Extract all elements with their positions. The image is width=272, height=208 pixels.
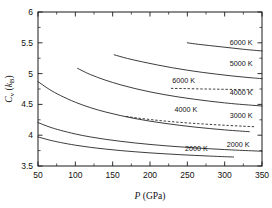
curve-label-3: 4000 K	[230, 88, 253, 97]
y-axis-title: Cv (kB)	[4, 75, 16, 102]
curve-label-4: 3000 K	[230, 111, 253, 120]
curve-label-5: 4000 K	[174, 105, 197, 114]
x-axis-title: P (GPa)	[134, 191, 166, 202]
curve-label-0: 6000 K	[230, 38, 253, 47]
x-tick-label: 350	[255, 170, 269, 180]
chart-figure: 501001502002503003503.544.555.566000 K50…	[0, 0, 272, 208]
curve-label-7: 2000 K	[185, 144, 208, 153]
y-tick-label: 4.5	[21, 99, 33, 109]
y-tick-label: 6	[28, 7, 33, 17]
cv-vs-pressure-chart: 501001502002503003503.544.555.566000 K50…	[0, 0, 272, 208]
y-tick-label: 5	[28, 69, 33, 79]
x-tick-label: 200	[143, 170, 157, 180]
x-tick-label: 50	[33, 170, 43, 180]
x-tick-label: 300	[218, 170, 232, 180]
curve-label-2: 6000 K	[172, 76, 195, 85]
curve-label-1: 5000 K	[230, 59, 253, 68]
x-tick-label: 100	[68, 170, 82, 180]
curve-label-6: 2000 K	[227, 140, 250, 149]
y-tick-label: 4	[28, 130, 33, 140]
y-tick-label: 3.5	[21, 161, 33, 171]
x-tick-label: 250	[180, 170, 194, 180]
y-tick-label: 5.5	[21, 38, 33, 48]
x-tick-label: 150	[106, 170, 120, 180]
